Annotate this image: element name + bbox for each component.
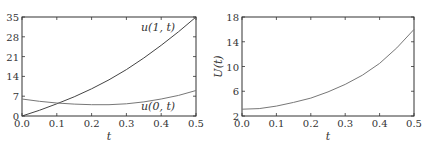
y-tick-label: 18 bbox=[226, 12, 239, 23]
series-line bbox=[242, 29, 414, 109]
y-tick-label: 10 bbox=[226, 62, 239, 73]
y-tick-label: 14 bbox=[6, 71, 19, 82]
y-tick-label: 21 bbox=[6, 52, 19, 63]
y-tick-label: 0 bbox=[13, 111, 19, 122]
charts-canvas: 0.00.10.20.30.40.50714212835tu(1, t)u(0,… bbox=[0, 0, 428, 147]
y-tick-label: 35 bbox=[6, 12, 19, 23]
x-tick-label: 0.2 bbox=[303, 118, 319, 129]
y-tick-label: 28 bbox=[6, 32, 19, 43]
y-tick-label: 6 bbox=[233, 86, 239, 97]
curve-annotation: u(1, t) bbox=[141, 21, 175, 34]
x-tick-label: 0.5 bbox=[188, 118, 204, 129]
curve-annotation: u(0, t) bbox=[141, 100, 175, 113]
x-tick-label: 0.4 bbox=[153, 118, 169, 129]
x-tick-label: 0.1 bbox=[268, 118, 284, 129]
x-axis-label: t bbox=[326, 130, 331, 143]
plot-frame-1 bbox=[242, 17, 414, 116]
x-tick-label: 0.3 bbox=[118, 118, 134, 129]
y-tick-label: 2 bbox=[233, 111, 239, 122]
y-tick-label: 7 bbox=[13, 91, 19, 102]
x-tick-label: 0.2 bbox=[84, 118, 100, 129]
x-tick-label: 0.5 bbox=[406, 118, 422, 129]
x-tick-label: 0.3 bbox=[337, 118, 353, 129]
x-tick-label: 0.4 bbox=[372, 118, 388, 129]
x-axis-label: t bbox=[107, 130, 112, 143]
x-tick-label: 0.1 bbox=[49, 118, 65, 129]
y-tick-label: 14 bbox=[226, 37, 239, 48]
y-axis-label: U(t) bbox=[212, 55, 225, 77]
